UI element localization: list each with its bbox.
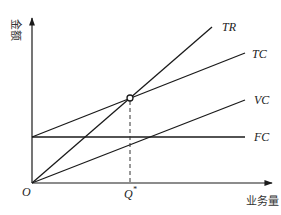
tc-label: TC — [252, 47, 268, 61]
y-axis-label: 金额 — [9, 19, 23, 41]
vc-line — [32, 100, 245, 183]
q-star-label: Q* — [124, 185, 137, 201]
break-even-point — [127, 95, 133, 101]
x-axis-label: 业务量 — [246, 195, 279, 208]
tc-line — [32, 53, 245, 137]
tr-label: TR — [222, 20, 237, 34]
fc-label: FC — [253, 130, 270, 144]
vc-label: VC — [254, 93, 270, 107]
tr-line — [32, 27, 212, 183]
origin-label: O — [22, 185, 31, 199]
break-even-chart: 金额 业务量 O Q* TR TC VC FC — [0, 0, 281, 215]
